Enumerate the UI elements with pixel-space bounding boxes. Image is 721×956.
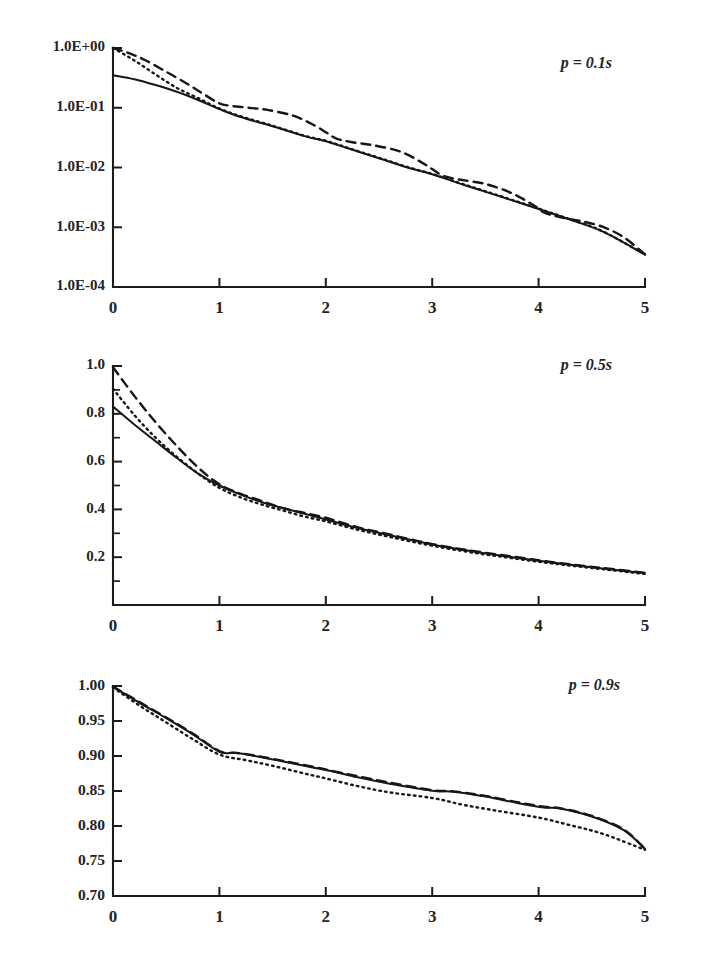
x-tick-label: 1 <box>215 298 224 317</box>
plot-area: 0.700.750.800.850.900.951.00012345p = 0.… <box>0 660 721 956</box>
y-tick-label: 0.6 <box>86 452 105 468</box>
y-tick-label: 0.8 <box>86 404 105 420</box>
x-tick-label: 2 <box>322 907 331 926</box>
x-tick-label: 5 <box>641 907 650 926</box>
x-tick-label: 5 <box>641 616 650 635</box>
y-tick-label: 0.80 <box>78 816 105 833</box>
x-tick-label: 4 <box>534 907 543 926</box>
y-tick-label: 1.0E-01 <box>56 98 105 114</box>
y-tick-label: 1.0 <box>86 356 105 372</box>
curve-dashed <box>113 687 645 849</box>
y-tick-label: 1.0E-02 <box>56 158 105 174</box>
x-tick-label: 0 <box>109 907 118 926</box>
x-tick-label: 4 <box>534 616 543 635</box>
x-tick-label: 5 <box>641 298 650 317</box>
axis-lines <box>113 48 645 287</box>
curve-dotted <box>113 389 645 574</box>
y-tick-label: 1.0E+00 <box>53 38 105 54</box>
x-tick-label: 0 <box>109 616 118 635</box>
plot-area: 1.0E+001.0E-011.0E-021.0E-031.0E-0401234… <box>0 0 721 336</box>
y-tick-label: 0.95 <box>78 711 105 728</box>
x-tick-label: 1 <box>215 616 224 635</box>
x-tick-label: 2 <box>322 616 331 635</box>
curve-solid <box>113 75 645 254</box>
y-tick-label: 1.0E-04 <box>56 277 105 293</box>
chart-panel-p01: 1.0E+001.0E-011.0E-021.0E-031.0E-0401234… <box>0 0 721 336</box>
x-tick-label: 3 <box>428 616 437 635</box>
panel-annotation-label: p = 0.9s <box>567 676 620 694</box>
x-tick-label: 1 <box>215 907 224 926</box>
x-tick-label: 3 <box>428 298 437 317</box>
y-tick-label: 1.00 <box>78 676 105 693</box>
x-tick-label: 0 <box>109 298 118 317</box>
chart-panel-p09: 0.700.750.800.850.900.951.00012345p = 0.… <box>0 660 721 956</box>
y-tick-label: 0.70 <box>78 886 105 903</box>
y-tick-label: 0.75 <box>78 851 105 868</box>
chart-panel-p05: 0.20.40.60.81.0012345p = 0.5s <box>0 336 721 660</box>
panel-annotation-label: p = 0.1s <box>559 54 612 72</box>
y-tick-label: 0.90 <box>78 746 105 763</box>
curve-dotted <box>113 48 645 254</box>
plot-area: 0.20.40.60.81.0012345p = 0.5s <box>0 336 721 660</box>
x-tick-label: 2 <box>322 298 331 317</box>
y-tick-label: 0.2 <box>86 548 105 564</box>
curve-solid <box>113 687 645 849</box>
y-tick-label: 1.0E-03 <box>56 218 105 234</box>
x-tick-label: 3 <box>428 907 437 926</box>
axis-lines <box>113 366 645 605</box>
panel-annotation-label: p = 0.5s <box>559 356 612 374</box>
x-tick-label: 4 <box>534 298 543 317</box>
figure-three-panel-survival-plots: 1.0E+001.0E-011.0E-021.0E-031.0E-0401234… <box>0 0 721 956</box>
y-tick-label: 0.4 <box>86 500 105 516</box>
curve-dashed <box>113 48 645 254</box>
curve-dotted <box>113 687 645 849</box>
y-tick-label: 0.85 <box>78 781 105 798</box>
curve-solid <box>113 407 645 574</box>
